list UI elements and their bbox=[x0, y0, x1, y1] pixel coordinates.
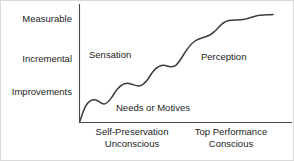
x-axis-label-left-line2: Unconscious bbox=[80, 138, 184, 150]
region-label-sensation: Sensation bbox=[89, 49, 131, 60]
region-label-needs-or-motives: Needs or Motives bbox=[116, 102, 190, 113]
x-axis-label-right: Top Performance Conscious bbox=[181, 126, 281, 150]
y-axis-label-improvements: Improvements bbox=[12, 86, 72, 97]
x-axis-label-left: Self-Preservation Unconscious bbox=[80, 126, 184, 150]
y-axis-label-measurable: Measurable bbox=[22, 13, 72, 24]
chart-figure: Measurable Incremental Improvements Sens… bbox=[0, 0, 294, 161]
region-label-perception: Perception bbox=[201, 51, 246, 62]
x-axis-label-left-line1: Self-Preservation bbox=[80, 126, 184, 138]
x-axis-label-right-line2: Conscious bbox=[181, 138, 281, 150]
x-axis-label-right-line1: Top Performance bbox=[181, 126, 281, 138]
y-axis-label-incremental: Incremental bbox=[22, 53, 72, 64]
